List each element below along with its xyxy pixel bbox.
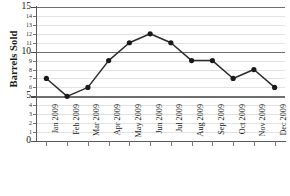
line-chart: Barrels Sold 0123456789101112131415 Jan …: [0, 0, 290, 196]
x-tick-mark: [275, 141, 276, 146]
x-tick-mark: [212, 141, 213, 146]
x-tick-label: Apr 2009: [113, 104, 122, 150]
x-tick-mark: [192, 141, 193, 146]
x-tick-label: Oct 2009: [238, 104, 247, 150]
x-tick-label: Feb 2009: [72, 104, 81, 150]
x-tick-mark: [150, 141, 151, 146]
data-point-marker: Oct 2009: 7: [231, 76, 236, 81]
x-tick-mark: [233, 141, 234, 146]
x-tick-mark: [88, 141, 89, 146]
data-point-marker: May 2009: 11: [127, 40, 132, 45]
data-series-layer: Jan 2009: 7Feb 2009: 5Mar 2009: 6Apr 200…: [0, 0, 290, 196]
x-tick-mark: [171, 141, 172, 146]
x-tick-label: Dec 2009: [279, 104, 288, 150]
data-point-marker: Jan 2009: 7: [44, 76, 49, 81]
data-point-marker: Aug 2009: 9: [189, 58, 194, 63]
x-tick-label: Jun 2009: [155, 104, 164, 150]
data-point-marker: Nov 2009: 8: [251, 67, 256, 72]
x-tick-label: Aug 2009: [196, 104, 205, 150]
x-tick-label: Nov 2009: [258, 104, 267, 150]
data-point-marker: Mar 2009: 6: [85, 85, 90, 90]
data-point-marker: Jun 2009: 12: [148, 31, 153, 36]
data-point-marker: Feb 2009: 5: [65, 94, 70, 99]
x-tick-mark: [109, 141, 110, 146]
x-tick-label: Jan 2009: [51, 104, 60, 150]
x-tick-mark: [129, 141, 130, 146]
x-tick-mark: [67, 141, 68, 146]
data-point-marker: Jul 2009: 11: [168, 40, 173, 45]
x-tick-label: May 2009: [134, 104, 143, 150]
x-tick-mark: [46, 141, 47, 146]
x-tick-label: Mar 2009: [92, 104, 101, 150]
data-point-marker: Sep 2009: 9: [210, 58, 215, 63]
x-tick-label: Jul 2009: [175, 104, 184, 150]
data-point-marker: Dec 2009: 6: [272, 85, 277, 90]
data-point-marker: Apr 2009: 9: [106, 58, 111, 63]
x-tick-label: Sep 2009: [217, 104, 226, 150]
series-line: [46, 34, 274, 97]
x-tick-mark: [254, 141, 255, 146]
